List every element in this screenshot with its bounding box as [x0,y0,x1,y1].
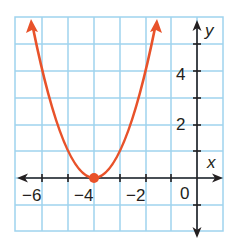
x-axis-label: x [206,153,216,172]
curve-arrow-left-icon [26,19,38,33]
y-tick-label-4: 4 [176,65,185,84]
grid [15,17,223,231]
x-tick-label-neg4: −4 [74,186,93,205]
y-axis [193,20,202,238]
y-tick-label-2: 2 [176,115,185,134]
x-axis [17,174,223,183]
vertex-point [89,173,99,183]
y-axis-label: y [204,21,215,40]
x-tick-label-neg2: −2 [126,186,145,205]
x-tick-label-neg6: −6 [22,186,41,205]
curve-arrow-right-icon [150,19,162,33]
x-tick-label-0: 0 [180,184,189,203]
parabola-graph: −6 −4 −2 0 2 4 y x [0,0,240,250]
